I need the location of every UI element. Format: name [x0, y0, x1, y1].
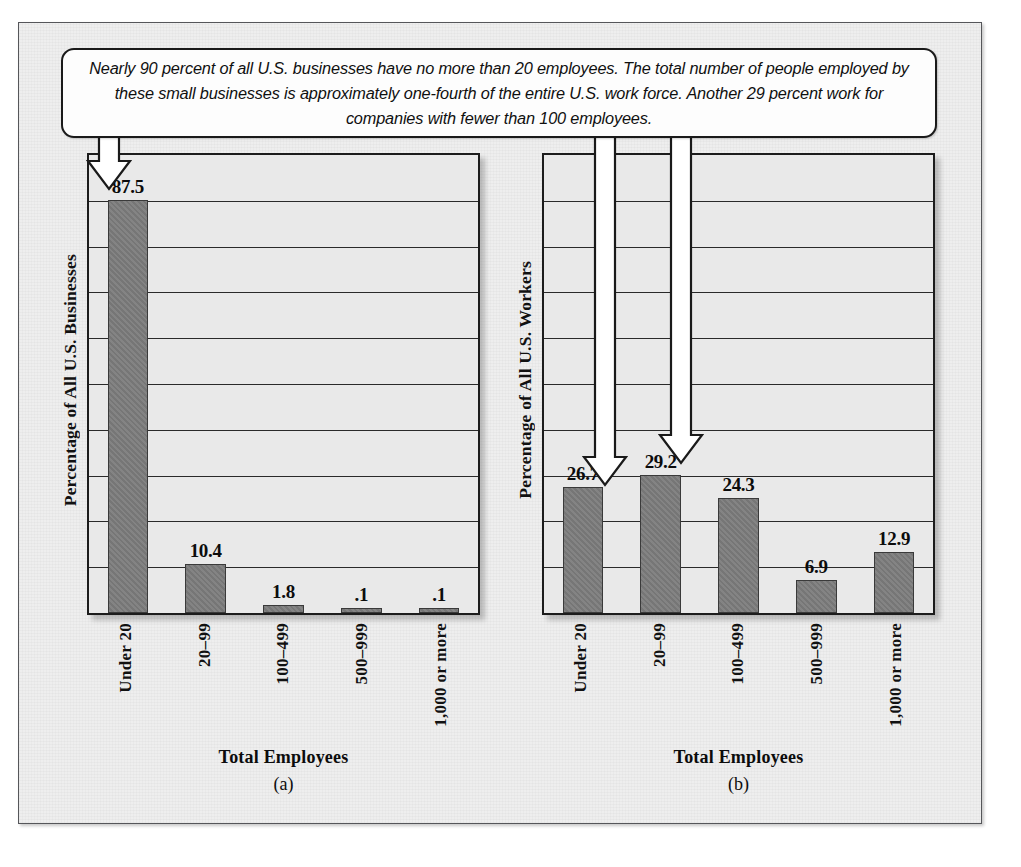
- panel-letter-a: (a): [87, 774, 480, 795]
- x-tick: 20–99: [621, 623, 700, 743]
- bar-slot: .1: [400, 155, 478, 613]
- bar[interactable]: 29.2: [640, 475, 680, 613]
- x-tick: 1,000 or more: [856, 623, 935, 743]
- x-tick: 100–499: [244, 623, 323, 743]
- x-axis-label-b: Total Employees: [542, 747, 935, 768]
- bar-value-label: 29.2: [645, 451, 677, 473]
- bar-value-label: 26.7: [567, 463, 599, 485]
- x-tick: Under 20: [87, 623, 166, 743]
- bar[interactable]: 12.9: [874, 552, 914, 613]
- x-tick: 20–99: [166, 623, 245, 743]
- bar-slot: 6.9: [777, 155, 855, 613]
- y-axis-label-a: Percentage of All U.S. Businesses: [55, 145, 85, 615]
- bar-slot: 24.3: [700, 155, 778, 613]
- bar-slot: 87.5: [89, 155, 167, 613]
- x-tick: Under 20: [542, 623, 621, 743]
- x-tick: 1,000 or more: [401, 623, 480, 743]
- x-tick: 500–999: [778, 623, 857, 743]
- bar[interactable]: .1: [341, 608, 381, 613]
- bar-slot: 26.7: [544, 155, 622, 613]
- caption-text: Nearly 90 percent of all U.S. businesses…: [63, 56, 935, 131]
- bar-value-label: 10.4: [190, 540, 222, 562]
- plot-area-b: 26.7 29.2 24.3: [542, 153, 935, 615]
- bar[interactable]: 26.7: [563, 487, 603, 613]
- bar-value-label: .1: [432, 584, 446, 606]
- caption-callout: Nearly 90 percent of all U.S. businesses…: [61, 48, 937, 138]
- bar-value-label: 87.5: [112, 176, 144, 198]
- bar-slot: 1.8: [245, 155, 323, 613]
- y-axis-label-b: Percentage of All U.S. Workers: [510, 145, 540, 615]
- bar-slot: 10.4: [167, 155, 245, 613]
- bar-value-label: 24.3: [722, 474, 754, 496]
- bar-slot: 12.9: [855, 155, 933, 613]
- plot-area-a: 87.5 10.4 1.8: [87, 153, 480, 615]
- bar-slot: 29.2: [622, 155, 700, 613]
- bar[interactable]: 6.9: [796, 580, 836, 613]
- bar[interactable]: 1.8: [263, 605, 303, 613]
- x-tick: 100–499: [699, 623, 778, 743]
- x-axis-label-a: Total Employees: [87, 747, 480, 768]
- bar[interactable]: 87.5: [108, 200, 148, 613]
- figure-frame: Nearly 90 percent of all U.S. businesses…: [18, 22, 982, 824]
- x-tick: 500–999: [323, 623, 402, 743]
- bar[interactable]: 10.4: [185, 564, 225, 613]
- bar-value-label: .1: [354, 584, 368, 606]
- bar-value-label: 12.9: [878, 528, 910, 550]
- panel-letter-b: (b): [542, 774, 935, 795]
- x-axis-ticks-b: Under 20 20–99 100–499 500–999 1,000 or …: [542, 623, 935, 743]
- bar-value-label: 6.9: [805, 556, 828, 578]
- page-canvas: Nearly 90 percent of all U.S. businesses…: [0, 0, 1021, 867]
- bars-a: 87.5 10.4 1.8: [89, 155, 478, 613]
- bar[interactable]: .1: [419, 608, 459, 613]
- bar-value-label: 1.8: [272, 581, 295, 603]
- bars-b: 26.7 29.2 24.3: [544, 155, 933, 613]
- x-axis-ticks-a: Under 20 20–99 100–499 500–999 1,000 or …: [87, 623, 480, 743]
- bar-slot: .1: [322, 155, 400, 613]
- bar[interactable]: 24.3: [718, 498, 758, 613]
